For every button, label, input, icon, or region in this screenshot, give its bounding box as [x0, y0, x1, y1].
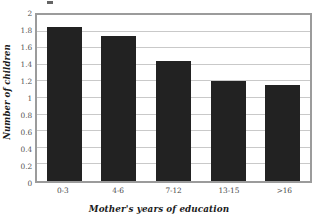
bar-chart-figure: Number of children 00.20.40.60.811.21.41… — [0, 0, 318, 222]
bars-group — [37, 15, 310, 181]
y-axis-tick-label: 0.8 — [10, 111, 32, 120]
y-axis-tick-labels: 00.20.40.60.811.21.41.61.82 — [10, 13, 32, 183]
bar-slot — [146, 15, 201, 181]
bar[interactable] — [156, 61, 191, 181]
y-axis-tick-label: 1.6 — [10, 43, 32, 52]
x-axis-tick-label: 13-15 — [201, 186, 256, 200]
y-axis-tick-label: 1.8 — [10, 26, 32, 35]
x-axis-tick-label: >16 — [257, 186, 312, 200]
y-axis-tick-label: 0.2 — [10, 162, 32, 171]
bar-slot — [255, 15, 310, 181]
y-axis-tick-label: 0.6 — [10, 128, 32, 137]
bar-slot — [201, 15, 256, 181]
bar-slot — [37, 15, 92, 181]
plot-area — [35, 13, 312, 183]
x-axis-title: Mother's years of education — [0, 204, 318, 214]
bar[interactable] — [101, 36, 136, 181]
y-axis-tick-label: 2 — [10, 9, 32, 18]
y-axis-tick-label: 1.4 — [10, 60, 32, 69]
bar[interactable] — [265, 85, 300, 181]
cropped-title-artifact — [47, 1, 53, 4]
y-axis-tick-label: 1 — [10, 94, 32, 103]
plot-inner — [37, 15, 310, 181]
y-axis-tick-label: 0 — [10, 179, 32, 188]
bar[interactable] — [211, 81, 246, 181]
x-axis-tick-label: 4-6 — [90, 186, 145, 200]
x-axis-tick-label: 0-3 — [35, 186, 90, 200]
x-axis-tick-label: 7-12 — [146, 186, 201, 200]
y-axis-tick-label: 0.4 — [10, 145, 32, 154]
bar[interactable] — [47, 27, 82, 181]
y-axis-tick-label: 1.2 — [10, 77, 32, 86]
x-axis-tick-labels: 0-34-67-1213-15>16 — [35, 186, 312, 200]
bar-slot — [92, 15, 147, 181]
